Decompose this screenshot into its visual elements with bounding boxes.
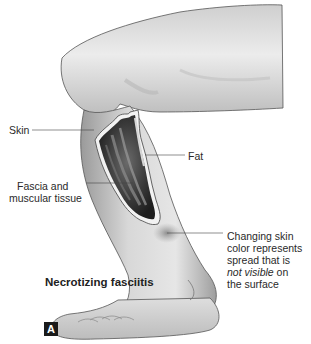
- thigh: [61, 5, 283, 116]
- label-fascia-line1: Fascia and: [9, 180, 82, 192]
- label-changing-line1: Changing skin: [227, 230, 302, 242]
- label-changing-line3: spread that is: [227, 254, 302, 266]
- label-fascia-muscle: Fascia and muscular tissue: [9, 180, 82, 204]
- figure-title: Necrotizing fasciitis: [45, 276, 154, 288]
- foot: [52, 298, 219, 339]
- label-skin: Skin: [9, 124, 29, 136]
- panel-letter-badge: A: [44, 322, 58, 336]
- label-fat: Fat: [188, 150, 203, 162]
- leg-illustration: [0, 0, 311, 344]
- label-changing-skin-color: Changing skin color represents spread th…: [227, 230, 302, 290]
- label-changing-line5: the surface: [227, 278, 302, 290]
- label-changing-line2: color represents: [227, 242, 302, 254]
- label-not-visible: not visible: [227, 266, 274, 278]
- label-changing-line4: not visible on: [227, 266, 302, 278]
- label-fascia-line2: muscular tissue: [9, 192, 82, 204]
- label-on: on: [274, 266, 289, 278]
